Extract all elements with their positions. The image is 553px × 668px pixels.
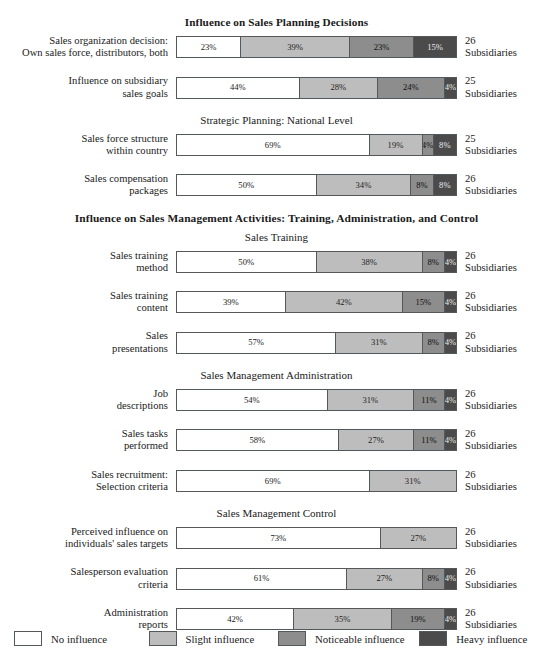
legend-label: No influence (51, 633, 107, 645)
stacked-bar: 50%38%8%4% (176, 251, 457, 273)
bar-segment: 4% (423, 135, 434, 155)
row-count-number: 26 (465, 388, 553, 400)
row-count-number: 25 (465, 133, 553, 145)
bar-segment: 23% (177, 37, 241, 57)
row-count-unit: Subsidiaries (465, 145, 553, 157)
bar-segment: 42% (177, 609, 294, 629)
bar-segment: 8% (423, 569, 445, 589)
legend-item: Heavy influence (419, 631, 547, 646)
section-rows: Perceived influence onindividuals' sales… (0, 526, 553, 631)
row-count-number: 26 (465, 290, 553, 302)
row-count: 25Subsidiaries (457, 75, 553, 99)
row-label: Salespresentations (0, 330, 176, 354)
row-label-line2: packages (0, 185, 168, 197)
row-label-line2: criteria (0, 579, 168, 591)
stacked-bar: 69%19%4%8% (176, 134, 457, 156)
bar-segment: 54% (177, 390, 328, 410)
bar-segment: 73% (177, 528, 381, 548)
row-count-number: 26 (465, 566, 553, 578)
legend-swatch-icon (278, 631, 306, 646)
legend-item: No influence (14, 631, 149, 646)
stacked-bar: 69%31% (176, 470, 457, 492)
row-label-line2: performed (0, 440, 168, 452)
bar-segment: 4% (445, 390, 456, 410)
row-label: Administrationreports (0, 607, 176, 631)
row-count-number: 26 (465, 469, 553, 481)
bar-segment: 44% (177, 78, 300, 98)
row-label-line1: Sales (146, 330, 168, 341)
row-label-line2: Selection criteria (0, 481, 168, 493)
chart-row: Sales force structurewithin country69%19… (0, 133, 553, 157)
row-label-line1: Job (153, 388, 168, 399)
row-label: Sales trainingcontent (0, 290, 176, 314)
row-count: 26Subsidiaries (457, 250, 553, 274)
row-count: 26Subsidiaries (457, 428, 553, 452)
row-label: Sales tasksperformed (0, 428, 176, 452)
section-subheading: Strategic Planning: National Level (0, 114, 553, 127)
section-heading: Influence on Sales Planning Decisions (0, 16, 553, 29)
chart-section: Influence on Sales Management Activities… (0, 198, 553, 355)
row-label-line1: Sales force structure (82, 133, 168, 144)
row-label-line1: Sales training (110, 290, 168, 301)
bar-segment: 58% (177, 430, 339, 450)
section-subheading: Sales Management Control (0, 507, 553, 520)
bar-segment: 19% (370, 135, 423, 155)
chart-row: Sales trainingmethod50%38%8%4%26Subsidia… (0, 250, 553, 274)
bar-segment: 31% (336, 333, 422, 353)
row-count: 26Subsidiaries (457, 330, 553, 354)
row-label: Perceived influence onindividuals' sales… (0, 526, 176, 550)
row-label-line1: Sales recruitment: (91, 469, 168, 480)
chart-legend: No influenceSlight influenceNoticeable i… (0, 631, 553, 646)
legend-label: Heavy influence (456, 633, 527, 645)
section-rows: Jobdescriptions54%31%11%4%26Subsidiaries… (0, 388, 553, 493)
row-label-line1: Sales tasks (122, 428, 168, 439)
bar-segment: 69% (177, 135, 370, 155)
chart-row: Salespresentations57%31%8%4%26Subsidiari… (0, 330, 553, 354)
row-count-number: 26 (465, 173, 553, 185)
row-label-line1: Salesperson evaluation (71, 566, 168, 577)
row-label-line2: Own sales force, distributors, both (0, 47, 168, 59)
row-count: 26Subsidiaries (457, 526, 553, 550)
row-count-number: 26 (465, 330, 553, 342)
row-label-line1: Sales compensation (84, 173, 168, 184)
bar-segment: 4% (445, 333, 456, 353)
row-count-number: 26 (465, 607, 553, 619)
row-label: Sales force structurewithin country (0, 133, 176, 157)
row-count: 26Subsidiaries (457, 173, 553, 197)
row-label: Jobdescriptions (0, 388, 176, 412)
row-label-line2: individuals' sales targets (0, 538, 168, 550)
bar-segment: 8% (411, 175, 433, 195)
row-label: Sales trainingmethod (0, 250, 176, 274)
row-count: 26Subsidiaries (457, 607, 553, 631)
section-subheading: Sales Training (0, 231, 553, 244)
chart-row: Perceived influence onindividuals' sales… (0, 526, 553, 550)
stacked-bar: 61%27%8%4% (176, 568, 457, 590)
section-rows: Sales trainingmethod50%38%8%4%26Subsidia… (0, 250, 553, 355)
chart-row: Influence on subsidiarysales goals44%28%… (0, 75, 553, 99)
row-count: 26Subsidiaries (457, 388, 553, 412)
row-count: 26Subsidiaries (457, 290, 553, 314)
bar-segment: 8% (434, 175, 456, 195)
row-label-line1: Sales organization decision: (49, 35, 168, 46)
chart-row: Sales recruitment:Selection criteria69%3… (0, 469, 553, 493)
row-label-line1: Sales training (110, 250, 168, 261)
bar-segment: 15% (403, 292, 445, 312)
row-count-unit: Subsidiaries (465, 579, 553, 591)
bar-segment: 24% (378, 78, 445, 98)
row-count-number: 26 (465, 526, 553, 538)
legend-item: Noticeable influence (278, 631, 419, 646)
stacked-bar: 39%42%15%4% (176, 291, 457, 313)
chart-section: Influence on Sales Planning DecisionsSal… (0, 0, 553, 100)
bar-segment: 28% (300, 78, 378, 98)
row-count-number: 25 (465, 75, 553, 87)
chart-section: Sales Management AdministrationJobdescri… (0, 355, 553, 493)
bar-segment: 34% (317, 175, 412, 195)
row-count-number: 26 (465, 428, 553, 440)
row-count-unit: Subsidiaries (465, 481, 553, 493)
row-label-line2: content (0, 302, 168, 314)
bar-segment: 4% (445, 78, 456, 98)
row-count-unit: Subsidiaries (465, 400, 553, 412)
legend-label: Noticeable influence (315, 633, 405, 645)
row-label: Sales organization decision:Own sales fo… (0, 35, 176, 59)
bar-segment: 4% (445, 292, 456, 312)
